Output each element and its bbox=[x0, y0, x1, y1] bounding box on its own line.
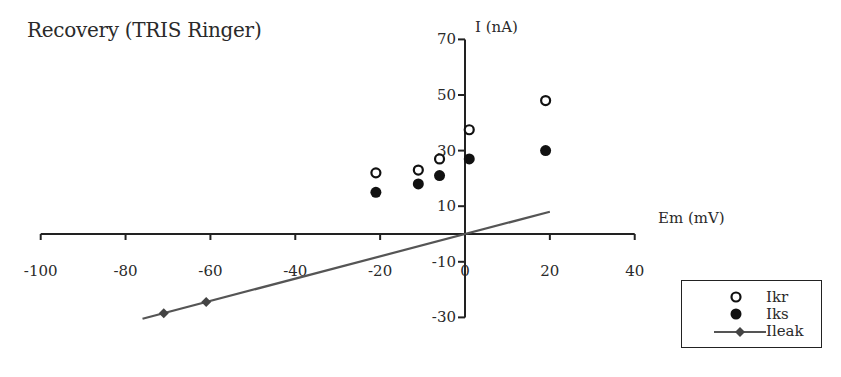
ikr-point bbox=[541, 96, 550, 105]
x-tick-label: -60 bbox=[198, 262, 222, 280]
iks-point bbox=[540, 145, 551, 156]
diamond-line-icon bbox=[682, 322, 766, 340]
filled-circle-icon bbox=[682, 305, 766, 323]
y-tick-label: -30 bbox=[432, 308, 456, 326]
legend-label: Ikr bbox=[766, 288, 788, 306]
iks-point bbox=[464, 153, 475, 164]
y-tick-label: -10 bbox=[432, 253, 456, 271]
legend-item-ileak: Ileak bbox=[682, 322, 821, 340]
open-circle-icon bbox=[682, 288, 766, 306]
legend-item-ikr: Ikr bbox=[682, 288, 821, 306]
y-axis-label: I (nA) bbox=[475, 18, 518, 36]
legend-label: Iks bbox=[766, 305, 789, 323]
legend-item-iks: Iks bbox=[682, 305, 821, 323]
ikr-point bbox=[465, 125, 474, 134]
x-tick-label: -80 bbox=[113, 262, 137, 280]
x-tick-label: -20 bbox=[368, 262, 392, 280]
iks-point bbox=[370, 187, 381, 198]
series-layer bbox=[143, 96, 552, 319]
legend-label: Ileak bbox=[766, 322, 804, 340]
x-tick-label: 40 bbox=[625, 262, 644, 280]
y-tick-label: 70 bbox=[437, 30, 456, 48]
axes: -100-80-60-40-200204070503010-10-30 bbox=[24, 30, 644, 326]
iks-point bbox=[413, 178, 424, 189]
legend: Ikr Iks Ileak bbox=[681, 280, 822, 348]
y-tick-label: 50 bbox=[437, 86, 456, 104]
ileak-point bbox=[159, 308, 169, 318]
x-tick-label: 20 bbox=[540, 262, 559, 280]
ikr-point bbox=[414, 166, 423, 175]
ikr-point bbox=[371, 168, 380, 177]
ikr-point bbox=[435, 154, 444, 163]
x-tick-label: -100 bbox=[24, 262, 58, 280]
y-tick-label: 10 bbox=[437, 197, 456, 215]
ileak-point bbox=[201, 297, 211, 307]
x-axis-label: Em (mV) bbox=[658, 209, 725, 227]
iks-point bbox=[434, 170, 445, 181]
